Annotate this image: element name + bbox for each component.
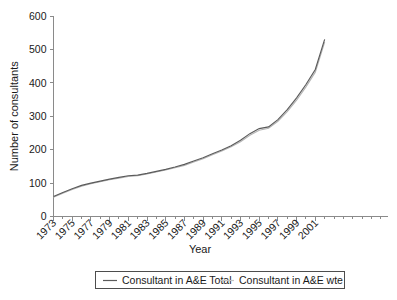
x-tick-label: 1973 bbox=[33, 216, 58, 241]
x-tick-label: 1987 bbox=[164, 216, 189, 241]
x-tick-label: 1979 bbox=[90, 216, 115, 241]
y-tick-label: 100 bbox=[29, 177, 47, 189]
x-axis-tick-labels: 1973197519771979198119831985198719891991… bbox=[33, 216, 320, 241]
x-tick-label: 1985 bbox=[146, 216, 171, 241]
y-axis-ticks bbox=[50, 16, 54, 217]
chart-canvas: 0100200300400500600 Number of consultant… bbox=[0, 0, 397, 300]
x-axis: 1973197519771979198119831985198719891991… bbox=[33, 216, 388, 255]
legend-label-total: Consultant in A&E Total bbox=[122, 274, 232, 286]
y-tick-label: 400 bbox=[29, 77, 47, 89]
y-axis-title: Number of consultants bbox=[8, 61, 20, 172]
x-tick-label: 1993 bbox=[220, 216, 245, 241]
y-tick-label: 300 bbox=[29, 110, 47, 122]
x-tick-label: 1983 bbox=[127, 216, 152, 241]
x-tick-label: 1977 bbox=[71, 216, 96, 241]
y-tick-label: 500 bbox=[29, 43, 47, 55]
legend: Consultant in A&E Total Consultant in A&… bbox=[96, 272, 345, 289]
x-tick-label: 1995 bbox=[239, 216, 264, 241]
series-line-consultant-total bbox=[54, 39, 325, 196]
y-tick-label: 200 bbox=[29, 143, 47, 155]
legend-label-wte: Consultant in A&E wte bbox=[239, 274, 343, 286]
data-series-group bbox=[54, 39, 325, 197]
x-axis-title: Year bbox=[189, 243, 212, 255]
y-axis-tick-labels: 0100200300400500600 bbox=[29, 10, 47, 223]
series-line-consultant-wte bbox=[54, 42, 325, 197]
x-tick-label: 1997 bbox=[258, 216, 283, 241]
x-tick-label: 1981 bbox=[108, 216, 133, 241]
x-tick-label: 1975 bbox=[52, 216, 77, 241]
line-chart: 0100200300400500600 Number of consultant… bbox=[0, 0, 397, 300]
x-tick-label: 1999 bbox=[277, 216, 302, 241]
x-tick-label: 2001 bbox=[295, 216, 320, 241]
y-tick-label: 600 bbox=[29, 10, 47, 22]
x-tick-label: 1989 bbox=[183, 216, 208, 241]
x-tick-label: 1991 bbox=[202, 216, 227, 241]
y-axis: 0100200300400500600 Number of consultant… bbox=[8, 10, 54, 223]
